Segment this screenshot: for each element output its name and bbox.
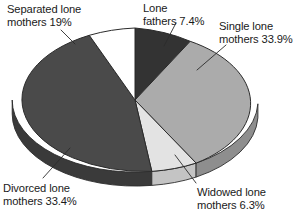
pie-label-single-lone-mothers: Single lone mothers 33.9%: [219, 20, 293, 45]
pie-top-face: [22, 28, 251, 172]
pie-label-separated-lone-mothers: Separated lone mothers 19%: [7, 3, 81, 28]
pie-label-widowed-lone-mothers: Widowed lone mothers 6.3%: [197, 186, 266, 211]
pie-label-divorced-lone-mothers: Divorced lone mothers 33.4%: [3, 182, 77, 207]
pie-chart-figure: Separated lone mothers 19% Lone fathers …: [0, 0, 307, 219]
pie-label-lone-fathers: Lone fathers 7.4%: [143, 2, 204, 27]
leader-line-separated: [61, 30, 75, 44]
